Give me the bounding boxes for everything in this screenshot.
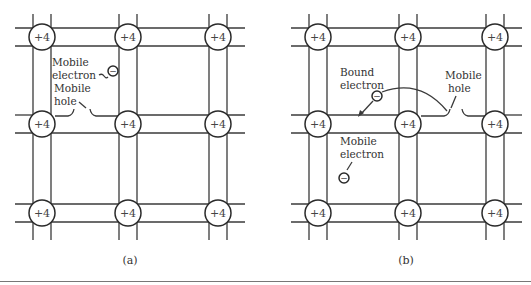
panel-b-lattice: +4+4+4+4+4+4+4+4+4 (291, 14, 522, 240)
panel-a-lattice: +4+4+4+4+4+4+4+4+4 (15, 14, 245, 240)
atom-charge-label: +4 (400, 31, 416, 44)
mobile-electron-label-line2: electron (340, 148, 384, 160)
atom-charge-label: +4 (400, 118, 416, 131)
atom-charge-label: +4 (34, 118, 50, 131)
atom-charge-label: +4 (210, 207, 226, 220)
mobile-hole-label-line2: hole (448, 82, 471, 94)
mobile-electron-label-line1: Mobile (340, 135, 377, 147)
mobile-electron-leader (347, 162, 352, 170)
atom-charge-label: +4 (120, 31, 136, 44)
bound-electron-label-line1: Bound (340, 66, 375, 78)
panel-a-annotations: Mobile electron − Mobile hole (52, 56, 118, 108)
mobile-hole-label-line1: Mobile (54, 82, 91, 94)
mobile-hole-leader (79, 102, 86, 108)
mobile-electron-label-line2: electron (52, 69, 96, 81)
panel-a-caption: (a) (122, 254, 137, 267)
atom-charge-label: +4 (210, 31, 226, 44)
mobile-hole-label-line1: Mobile (445, 69, 482, 81)
atom-charge-label: +4 (487, 207, 503, 220)
mobile-electron-leader (99, 74, 108, 78)
atom-charge-label: +4 (310, 31, 326, 44)
panel-b-caption: (b) (398, 254, 414, 267)
mobile-hole-leader (451, 96, 456, 108)
atom-charge-label: +4 (120, 118, 136, 131)
atom-charge-label: +4 (487, 118, 503, 131)
atom-charge-label: +4 (34, 31, 50, 44)
silicon-lattice-diagram: +4+4+4+4+4+4+4+4+4 +4+4+4+4+4+4+4+4+4 Mo… (0, 0, 531, 285)
electron-transfer-arc (382, 88, 447, 111)
atom-charge-label: +4 (34, 207, 50, 220)
atom-charge-label: +4 (310, 207, 326, 220)
electron-minus-sign: − (109, 66, 117, 76)
electron-transfer-arrow-shaft (361, 101, 373, 114)
atom-charge-label: +4 (210, 118, 226, 131)
mobile-electron-label-line1: Mobile (52, 56, 89, 68)
atom-charge-label: +4 (400, 207, 416, 220)
atom-charge-label: +4 (120, 207, 136, 220)
atom-charge-label: +4 (487, 31, 503, 44)
bound-electron-label-line2: electron (340, 79, 384, 91)
electron-minus-sign: − (340, 173, 348, 183)
electron-minus-sign: − (373, 91, 381, 101)
mobile-hole-label-line2: hole (54, 95, 77, 107)
atom-charge-label: +4 (310, 118, 326, 131)
